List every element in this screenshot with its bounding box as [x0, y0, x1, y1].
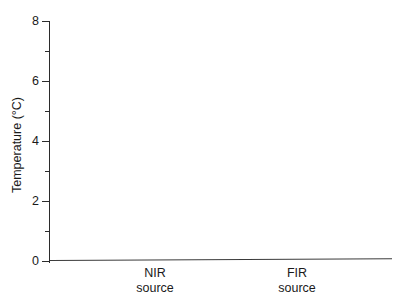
y-tick-label-0: 0 — [5, 255, 39, 268]
y-tick-major-0 — [42, 261, 50, 262]
chart-figure: 8 6 4 2 0 Temperature (°C) NIR source FI… — [0, 0, 398, 301]
x-category-label-fir: FIR source — [242, 266, 352, 295]
x-category-fir-line1: FIR — [242, 266, 352, 281]
x-category-label-nir: NIR source — [100, 266, 210, 295]
y-tick-major-4 — [42, 141, 50, 142]
y-tick-minor-1 — [45, 231, 50, 232]
y-tick-label-8: 8 — [5, 15, 39, 28]
y-tick-minor-3 — [45, 171, 50, 172]
y-axis-title-text: Temperature (°C) — [10, 97, 24, 193]
y-tick-major-8 — [42, 21, 50, 22]
plot-area — [50, 21, 392, 262]
x-category-nir-line2: source — [100, 281, 210, 296]
y-tick-major-2 — [42, 201, 50, 202]
y-tick-major-6 — [42, 81, 50, 82]
y-tick-minor-5 — [45, 111, 50, 112]
x-category-nir-line1: NIR — [100, 266, 210, 281]
y-axis-title: Temperature (°C) — [8, 50, 26, 240]
y-tick-minor-7 — [45, 51, 50, 52]
x-category-fir-line2: source — [242, 281, 352, 296]
